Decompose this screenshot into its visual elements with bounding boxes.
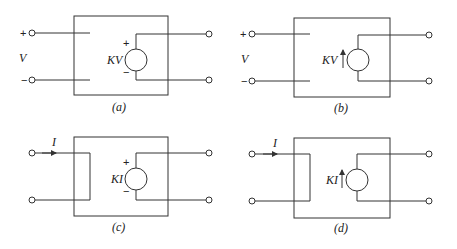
source-minus-sign: − (123, 185, 129, 197)
input-terminal-plus (29, 30, 35, 36)
output-terminal-bottom (206, 77, 212, 83)
output-wire-bottom (358, 71, 426, 81)
output-wire-top (136, 153, 206, 168)
output-wire-bottom (136, 71, 206, 80)
output-terminal-top (426, 32, 432, 38)
input-label: V (241, 52, 250, 66)
source-minus-sign: − (123, 66, 129, 78)
input-plus-sign: + (240, 28, 246, 40)
source-label: KV (106, 53, 124, 67)
current-source-icon (346, 169, 368, 191)
input-short-wire (255, 154, 310, 201)
input-minus-sign: − (241, 75, 247, 87)
output-terminal-top (426, 151, 432, 157)
source-plus-sign: + (123, 156, 129, 168)
output-terminal-bottom (206, 197, 212, 203)
box (294, 18, 390, 97)
input-plus-sign: + (20, 27, 26, 39)
output-wire-bottom (357, 191, 426, 201)
input-terminal-top (249, 151, 255, 157)
input-minus-sign: − (21, 74, 27, 86)
input-terminal-minus (29, 77, 35, 83)
output-wire-bottom (136, 190, 206, 200)
input-label: V (19, 51, 28, 65)
input-label: I (51, 135, 57, 149)
source-label: KV (321, 53, 339, 67)
input-terminal-minus (249, 78, 255, 84)
source-label: KI (325, 173, 339, 187)
panel-b: + − V KV (b) (240, 18, 432, 115)
output-terminal-bottom (426, 198, 432, 204)
caption: (b) (334, 101, 348, 115)
source-plus-sign: + (123, 37, 129, 49)
dependent-sources-diagram: + − V + − KV (a) + − V KV (b) (0, 0, 457, 249)
output-terminal-bottom (426, 78, 432, 84)
input-label: I (272, 136, 278, 150)
caption: (a) (112, 100, 126, 114)
source-label: KI (110, 172, 124, 186)
input-short-wire (35, 153, 90, 200)
input-terminal-plus (249, 31, 255, 37)
output-wire-top (136, 34, 206, 49)
input-terminal-bottom (29, 197, 35, 203)
output-wire-top (357, 154, 426, 169)
caption: (c) (112, 220, 125, 234)
panel-a: + − V + − KV (a) (19, 16, 212, 114)
output-terminal-top (206, 31, 212, 37)
input-terminal-top (29, 150, 35, 156)
caption: (d) (334, 221, 348, 235)
output-wire-top (358, 35, 426, 49)
input-terminal-bottom (249, 198, 255, 204)
output-terminal-top (206, 150, 212, 156)
panel-d: I KI (d) (249, 136, 432, 235)
current-source-icon (347, 49, 369, 71)
panel-c: I + − KI (c) (29, 135, 212, 234)
